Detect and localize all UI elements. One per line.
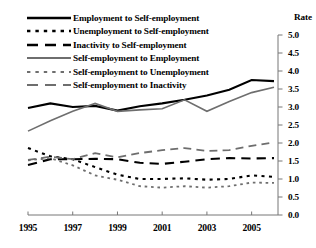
legend-item-employment-to-self-employment: Employment to Self-employment xyxy=(26,11,246,25)
y-axis-tick-label: 0.0 xyxy=(288,210,299,220)
legend-swatch-solid-gray-icon xyxy=(26,52,72,64)
legend-swatch-dashed-black-icon xyxy=(26,39,72,51)
legend-label: Employment to Self-employment xyxy=(72,13,199,23)
y-axis-tick-label: 3.5 xyxy=(288,84,299,94)
x-axis-tick-label: 2003 xyxy=(198,222,216,233)
y-axis-tick-label: 0.5 xyxy=(288,192,299,202)
legend-label: Self-employment to Inactivity xyxy=(72,80,186,90)
x-axis-tick-label: 1995 xyxy=(19,222,37,233)
legend-swatch-solid-black-icon xyxy=(26,12,72,24)
x-axis-tick-label: 1999 xyxy=(108,222,126,233)
legend-item-self-employment-to-inactivity: Self-employment to Inactivity xyxy=(26,79,246,93)
series-line-2 xyxy=(28,158,274,165)
y-axis-tick-label: 2.0 xyxy=(288,138,299,148)
series-group xyxy=(28,80,274,188)
y-axis-tick-label: 2.5 xyxy=(288,120,299,130)
x-axis-tick-label: 2001 xyxy=(153,222,171,233)
y-axis-tick-label: 1.5 xyxy=(288,156,299,166)
chart-figure: Employment to Self-employment Unemployme… xyxy=(0,0,316,248)
legend-swatch-dotted-black-icon xyxy=(26,25,72,37)
y-axis-tick-label: 3.0 xyxy=(288,102,299,112)
legend-swatch-dashed-gray-icon xyxy=(26,79,72,91)
legend-label: Self-employment to Unemployment xyxy=(72,67,209,77)
y-axis-tick-label: 4.5 xyxy=(288,48,299,58)
legend-label: Unemployment to Self-employment xyxy=(72,26,209,36)
y-axis-tick-label: 5.0 xyxy=(288,30,299,40)
legend-label: Self-employment to Employment xyxy=(72,53,199,63)
legend-item-self-employment-to-unemployment: Self-employment to Unemployment xyxy=(26,65,246,79)
y-axis-title: Rate xyxy=(294,12,312,22)
legend-item-inactivity-to-self-employment: Inactivity to Self-employment xyxy=(26,38,246,52)
y-axis-tick-label: 4.0 xyxy=(288,66,299,76)
series-line-3 xyxy=(28,87,274,131)
x-axis-tick-label: 2005 xyxy=(242,222,260,233)
legend-item-unemployment-to-self-employment: Unemployment to Self-employment xyxy=(26,25,246,39)
legend-swatch-dotted-gray-icon xyxy=(26,66,72,78)
chart-legend: Employment to Self-employment Unemployme… xyxy=(26,11,246,92)
y-axis-tick-label: 1.0 xyxy=(288,174,299,184)
legend-item-self-employment-to-employment: Self-employment to Employment xyxy=(26,52,246,66)
legend-label: Inactivity to Self-employment xyxy=(72,40,186,50)
x-axis-tick-label: 1997 xyxy=(64,222,82,233)
